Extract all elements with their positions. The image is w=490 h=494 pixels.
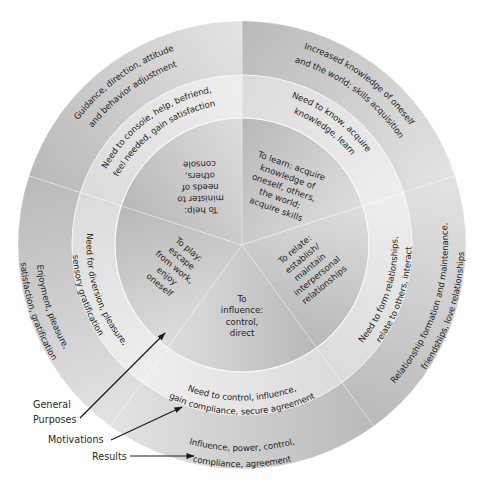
svg-text:control,: control,: [226, 317, 259, 327]
general-purposes-label-line: General: [33, 397, 77, 412]
svg-text:direct: direct: [230, 328, 255, 338]
svg-text:influence:: influence:: [221, 305, 263, 315]
motivations-label: Motivations: [48, 432, 104, 447]
svg-text:minister to: minister to: [177, 193, 224, 204]
svg-text:To help:: To help:: [184, 205, 219, 216]
svg-text:To: To: [236, 294, 246, 304]
results-label: Results: [92, 449, 127, 464]
svg-text:needs of: needs of: [181, 182, 219, 193]
general-purposes-label-line: Purposes: [33, 412, 77, 427]
motivations-label-line: Motivations: [48, 432, 104, 447]
svg-text:others,: others,: [185, 170, 215, 181]
results-label-line: Results: [92, 449, 127, 464]
svg-text:console: console: [183, 159, 216, 170]
general-purposes-label: GeneralPurposes: [33, 397, 77, 427]
